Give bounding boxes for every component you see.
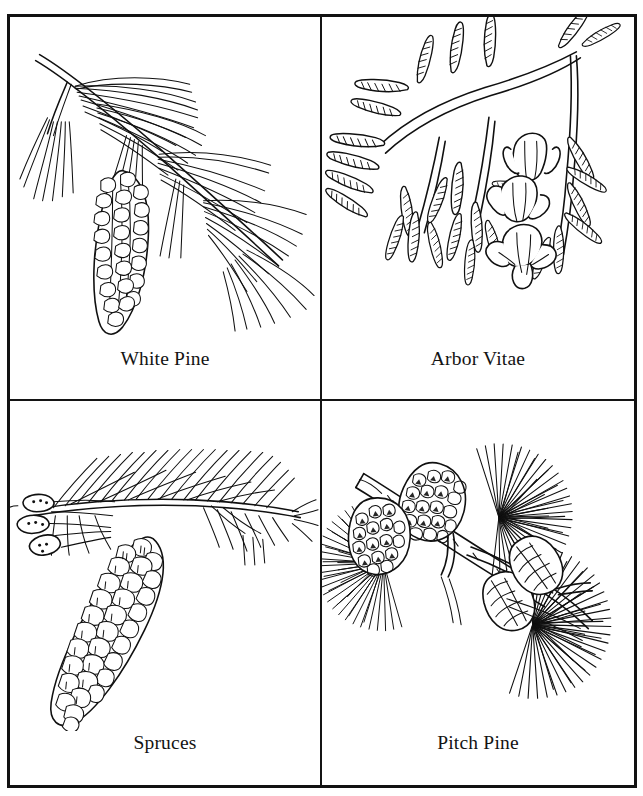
cell-label-spruces: Spruces (133, 733, 196, 753)
spruce-buds (10, 494, 115, 555)
spruce-branch-illustration (10, 401, 320, 731)
arbor-vitae-spray-illustration (322, 17, 634, 347)
white-pine-cone (94, 171, 149, 335)
spruce-cone (45, 524, 172, 731)
cell-label-arbor-vitae: Arbor Vitae (431, 349, 525, 369)
chart-cell-white-pine: White Pine (10, 17, 322, 401)
white-pine-branch-illustration (10, 17, 320, 347)
arbor-vitae-cones (486, 133, 560, 288)
pitch-pine-branch-illustration (322, 401, 634, 731)
chart-cell-spruces: Spruces (10, 401, 322, 785)
cell-label-pitch-pine: Pitch Pine (437, 733, 519, 753)
conifer-chart-grid: White Pine (7, 14, 637, 788)
chart-cell-arbor-vitae: Arbor Vitae (322, 17, 634, 401)
cell-label-white-pine: White Pine (120, 349, 209, 369)
chart-cell-pitch-pine: Pitch Pine (322, 401, 634, 785)
